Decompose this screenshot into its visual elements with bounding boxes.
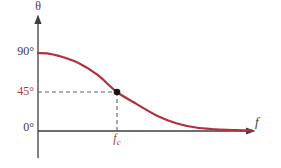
y-tick-90: 90°: [6, 45, 34, 58]
y-tick-45: 45°: [6, 85, 34, 98]
curve-point-marker: [114, 89, 121, 96]
fc-subscript: c: [117, 137, 121, 147]
y-axis-label: θ: [35, 0, 41, 13]
x-tick-fc: fc: [113, 132, 120, 149]
chart-canvas: [0, 0, 281, 168]
phase-response-figure: θ 90° 45° 0° fc f: [0, 0, 281, 168]
y-axis-arrow-icon: [34, 15, 41, 25]
y-tick-0: 0°: [6, 121, 34, 134]
x-axis-label: f: [255, 115, 259, 128]
